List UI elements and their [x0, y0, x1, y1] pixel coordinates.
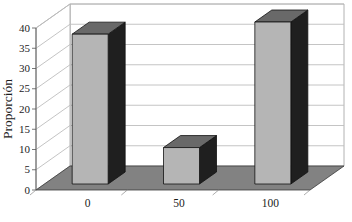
bar-front	[164, 148, 200, 184]
bar-front	[72, 34, 108, 184]
x-tick	[304, 190, 310, 195]
x-category-label: 0	[85, 197, 91, 209]
x-category-label: 50	[173, 197, 185, 209]
x-tick	[213, 190, 219, 195]
y-tick-label: 35	[19, 42, 31, 54]
x-tick	[121, 190, 127, 195]
y-tick-label: 15	[19, 123, 31, 135]
bar-chart-3d: 0510152025303540050100Proporción	[0, 0, 352, 222]
x-category-label: 100	[262, 197, 280, 209]
y-tick-label: 0	[25, 184, 31, 196]
chart-canvas: 0510152025303540050100Proporción	[0, 0, 352, 222]
y-tick-label: 40	[19, 22, 31, 34]
bar-side	[108, 22, 125, 184]
bar-front	[255, 22, 291, 184]
y-tick-label: 30	[19, 62, 31, 74]
y-tick-label: 10	[19, 143, 31, 155]
y-tick-label: 25	[19, 82, 31, 94]
x-tick	[30, 190, 36, 195]
y-tick-label: 20	[19, 103, 31, 115]
y-tick-label: 5	[25, 163, 31, 175]
bar-side	[291, 10, 308, 184]
y-axis-title: Proporción	[0, 79, 15, 139]
